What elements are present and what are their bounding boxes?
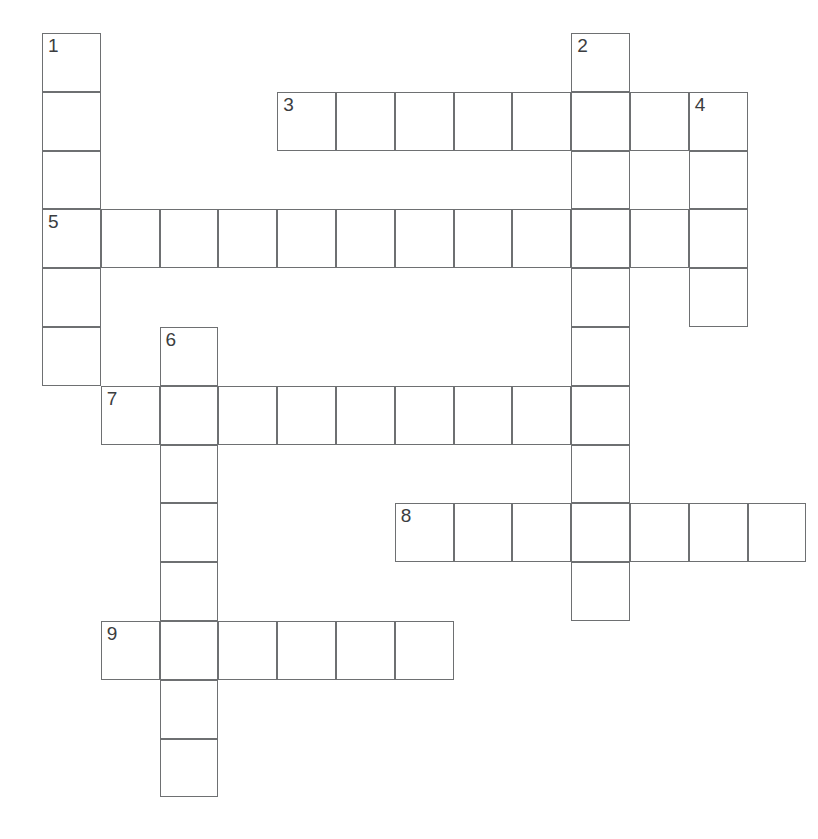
cell-number: 4 (695, 94, 706, 116)
crossword-cell[interactable] (630, 92, 689, 151)
crossword-cell[interactable] (454, 209, 513, 268)
crossword-cell[interactable] (689, 268, 748, 327)
crossword-cell[interactable]: 4 (689, 92, 748, 151)
cell-number: 9 (107, 623, 118, 645)
crossword-cell[interactable] (689, 209, 748, 268)
crossword-cell[interactable] (277, 386, 336, 445)
crossword-cell[interactable] (395, 386, 454, 445)
crossword-cell[interactable]: 6 (160, 327, 219, 386)
crossword-cell[interactable] (160, 445, 219, 504)
crossword-cell[interactable] (160, 680, 219, 739)
crossword-cell[interactable]: 3 (277, 92, 336, 151)
crossword-cell[interactable] (571, 92, 630, 151)
crossword-cell[interactable] (160, 503, 219, 562)
crossword-cell[interactable] (571, 386, 630, 445)
cell-number: 6 (166, 329, 177, 351)
crossword-cell[interactable] (454, 92, 513, 151)
crossword-cell[interactable] (454, 503, 513, 562)
crossword-cell[interactable]: 2 (571, 33, 630, 92)
crossword-cell[interactable] (748, 503, 807, 562)
crossword-cell[interactable]: 7 (101, 386, 160, 445)
crossword-puzzle: 152346789 (0, 0, 818, 839)
crossword-cell[interactable] (336, 92, 395, 151)
crossword-cell[interactable] (571, 151, 630, 210)
crossword-cell[interactable] (101, 209, 160, 268)
crossword-cell[interactable] (277, 621, 336, 680)
crossword-cell[interactable] (689, 503, 748, 562)
crossword-cell[interactable] (42, 327, 101, 386)
crossword-cell[interactable] (454, 386, 513, 445)
crossword-cell[interactable] (336, 621, 395, 680)
crossword-cell[interactable]: 1 (42, 33, 101, 92)
cell-number: 1 (48, 35, 59, 57)
crossword-cell[interactable] (689, 151, 748, 210)
crossword-cell[interactable] (571, 562, 630, 621)
cell-number: 2 (577, 35, 588, 57)
crossword-cell[interactable] (160, 739, 219, 798)
crossword-cell[interactable]: 5 (42, 209, 101, 268)
crossword-cell[interactable] (42, 151, 101, 210)
crossword-cell[interactable] (336, 209, 395, 268)
crossword-cell[interactable] (630, 209, 689, 268)
crossword-cell[interactable] (512, 503, 571, 562)
crossword-cell[interactable] (160, 621, 219, 680)
crossword-cell[interactable] (160, 209, 219, 268)
crossword-cell[interactable] (571, 268, 630, 327)
crossword-cell[interactable] (218, 209, 277, 268)
cell-number: 3 (283, 94, 294, 116)
crossword-grid[interactable]: 152346789 (0, 0, 818, 839)
crossword-cell[interactable] (512, 92, 571, 151)
crossword-cell[interactable] (42, 92, 101, 151)
crossword-cell[interactable] (630, 503, 689, 562)
crossword-cell[interactable] (571, 327, 630, 386)
crossword-cell[interactable] (395, 209, 454, 268)
crossword-cell[interactable] (512, 209, 571, 268)
crossword-cell[interactable] (336, 386, 395, 445)
crossword-cell[interactable] (395, 621, 454, 680)
crossword-cell[interactable] (218, 621, 277, 680)
crossword-cell[interactable] (160, 386, 219, 445)
crossword-cell[interactable] (571, 445, 630, 504)
crossword-cell[interactable] (277, 209, 336, 268)
crossword-cell[interactable] (571, 209, 630, 268)
crossword-cell[interactable] (160, 562, 219, 621)
crossword-cell[interactable] (571, 503, 630, 562)
crossword-cell[interactable]: 8 (395, 503, 454, 562)
crossword-cell[interactable]: 9 (101, 621, 160, 680)
crossword-cell[interactable] (218, 386, 277, 445)
cell-number: 8 (401, 505, 412, 527)
cell-number: 5 (48, 211, 59, 233)
crossword-cell[interactable] (42, 268, 101, 327)
cell-number: 7 (107, 388, 118, 410)
crossword-cell[interactable] (512, 386, 571, 445)
crossword-cell[interactable] (395, 92, 454, 151)
